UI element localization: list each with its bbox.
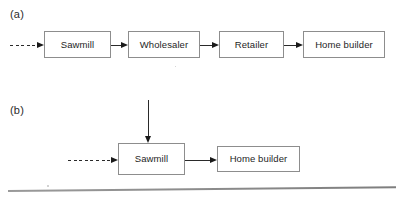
arrowhead-icon: [111, 157, 118, 163]
baseline-rule: [8, 186, 396, 191]
node-label-b-sawmill: Sawmill: [135, 154, 168, 164]
figure-canvas: (a)SawmillWholesalerRetailerHome builder…: [0, 0, 399, 198]
panel-label-b: (b): [10, 105, 24, 116]
node-box-a-home-builder: Home builder: [303, 31, 385, 58]
node-box-a-sawmill: Sawmill: [44, 31, 111, 58]
edge-dashed-horizontal: [62, 154, 124, 166]
node-box-b-sawmill: Sawmill: [118, 143, 185, 175]
node-label-b-home-builder: Home builder: [230, 154, 288, 164]
scan-speck: [47, 185, 49, 187]
edge-solid-vertical: [142, 94, 154, 149]
panel-label-a: (a): [10, 9, 24, 20]
node-label-a-home-builder: Home builder: [315, 40, 373, 50]
node-box-b-home-builder: Home builder: [217, 146, 300, 172]
arrowhead-icon: [210, 157, 217, 163]
node-box-a-wholesaler: Wholesaler: [128, 31, 200, 58]
node-label-a-wholesaler: Wholesaler: [140, 40, 189, 50]
arrowhead-icon: [145, 136, 151, 143]
arrowhead-icon: [121, 42, 128, 48]
node-label-a-sawmill: Sawmill: [61, 40, 94, 50]
scan-speck: [175, 66, 176, 67]
arrowhead-icon: [212, 42, 219, 48]
arrowhead-icon: [296, 42, 303, 48]
node-label-a-retailer: Retailer: [235, 40, 269, 50]
arrowhead-icon: [37, 42, 44, 48]
node-box-a-retailer: Retailer: [219, 31, 284, 58]
